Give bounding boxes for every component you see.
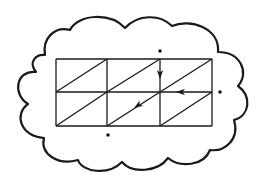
grid-diagonal-line [160, 59, 212, 92]
bottom-dot [106, 133, 110, 137]
diagram-canvas [0, 0, 268, 185]
grid-diagonal-line [56, 59, 107, 92]
grid-diagonal-line [107, 59, 160, 92]
right-dot [218, 90, 222, 94]
grid-diagonal-line [160, 92, 212, 126]
diagram-svg [0, 0, 268, 185]
cloud-outline [18, 17, 247, 171]
grid-diagonal-line [56, 92, 107, 126]
top-dot [158, 49, 162, 53]
grid-diagonal-line [107, 92, 160, 126]
triangulated-grid [56, 59, 212, 126]
